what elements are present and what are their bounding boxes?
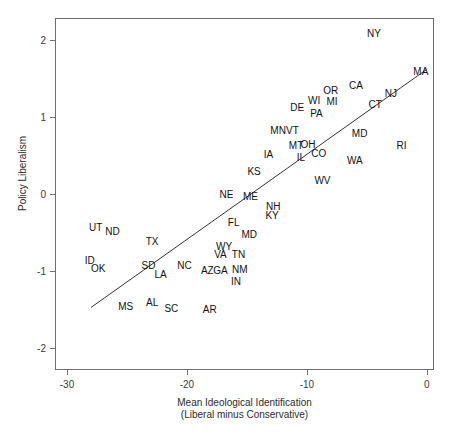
state-label: WI — [308, 96, 320, 106]
state-label: ND — [105, 227, 119, 237]
x-tick-label: 0 — [407, 379, 447, 390]
state-label: MT — [289, 141, 303, 151]
state-label: CO — [311, 149, 326, 159]
y-tick-label: -1 — [22, 266, 46, 277]
state-label: VA — [214, 250, 227, 260]
state-label: NY — [367, 29, 381, 39]
state-label: WV — [314, 176, 330, 186]
x-axis-title-line1: Mean Ideological Identification — [55, 397, 434, 409]
scatter-plot-figure: 210-1-2 -30-20-100 NYMACAORNJWIMICTDEPAM… — [0, 0, 450, 436]
state-label: MN — [270, 126, 286, 136]
state-label: OR — [323, 86, 338, 96]
x-axis-title: Mean Ideological Identification (Liberal… — [55, 397, 434, 421]
state-label: ME — [243, 192, 258, 202]
state-label: PA — [310, 109, 323, 119]
state-label: TX — [146, 237, 159, 247]
x-tick-mark — [307, 370, 308, 375]
state-label: IL — [297, 153, 305, 163]
x-axis-title-line2: (Liberal minus Conservative) — [55, 409, 434, 421]
x-tick-mark — [187, 370, 188, 375]
x-tick-mark — [427, 370, 428, 375]
state-label: SC — [164, 304, 178, 314]
state-label: DE — [290, 103, 304, 113]
y-tick-label: -2 — [22, 343, 46, 354]
state-label: FL — [228, 218, 240, 228]
state-label: NJ — [385, 89, 397, 99]
state-label: SD — [142, 261, 156, 271]
state-label: NE — [220, 190, 234, 200]
state-label: OK — [91, 264, 105, 274]
x-tick-label: -30 — [47, 379, 87, 390]
state-label: IN — [231, 277, 241, 287]
y-tick-mark — [50, 40, 55, 41]
state-label: MD — [352, 129, 368, 139]
state-label: MD — [242, 230, 258, 240]
state-label: CA — [349, 81, 363, 91]
state-label: MI — [326, 97, 337, 107]
x-tick-label: -20 — [167, 379, 207, 390]
x-tick-label: -10 — [287, 379, 327, 390]
state-label: MS — [118, 302, 133, 312]
y-tick-mark — [50, 194, 55, 195]
state-label: KS — [247, 167, 260, 177]
state-label: AR — [203, 305, 217, 315]
state-label: RI — [397, 141, 407, 151]
y-tick-mark — [50, 117, 55, 118]
state-label: IA — [264, 150, 273, 160]
y-axis-title: Policy Liberalism — [17, 104, 28, 244]
state-label: CT — [369, 100, 382, 110]
y-tick-label: 2 — [22, 34, 46, 45]
x-tick-mark — [67, 370, 68, 375]
state-label: LA — [154, 270, 166, 280]
state-label: GA — [213, 266, 227, 276]
state-label: VT — [286, 126, 299, 136]
state-label: UT — [89, 223, 102, 233]
state-label: AZ — [201, 266, 214, 276]
state-label: AL — [146, 298, 158, 308]
y-tick-mark — [50, 271, 55, 272]
y-tick-mark — [50, 348, 55, 349]
state-label: NC — [177, 261, 191, 271]
state-label: WA — [347, 156, 363, 166]
state-label: KY — [265, 211, 278, 221]
state-label: TN — [232, 250, 245, 260]
state-label: MA — [413, 67, 428, 77]
state-label: NM — [232, 265, 248, 275]
